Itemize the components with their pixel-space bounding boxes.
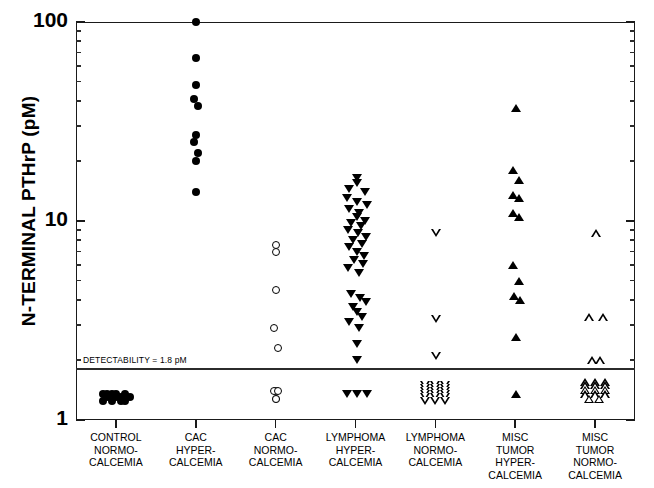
y-tick-minor (76, 65, 81, 66)
y-tick-minor (76, 324, 81, 325)
y-tick-minor (76, 125, 81, 126)
data-point (514, 213, 524, 221)
y-tick-minor (630, 280, 635, 281)
data-point (272, 248, 280, 256)
detectability-label: DETECTABILITY = 1.8 pM (83, 355, 187, 365)
y-tick-label-1: 1 (56, 406, 68, 430)
data-point (354, 269, 364, 277)
data-point (274, 344, 282, 352)
data-point (515, 296, 525, 304)
data-point (594, 395, 604, 403)
y-tick-label-100: 100 (33, 8, 68, 32)
data-point (511, 333, 521, 341)
data-point (357, 313, 367, 321)
y-tick-minor (630, 100, 635, 101)
y-tick-minor (630, 52, 635, 53)
y-tick-minor (76, 264, 81, 265)
data-point (344, 318, 354, 326)
y-tick-minor (630, 299, 635, 300)
data-point (99, 397, 107, 405)
y-tick-minor (76, 81, 81, 82)
x-tick (115, 420, 117, 428)
y-tick-minor (76, 359, 81, 360)
data-point (344, 205, 354, 213)
data-point (514, 176, 524, 184)
y-tick-minor (76, 100, 81, 101)
y-tick-major (626, 419, 635, 421)
y-tick-minor (630, 324, 635, 325)
y-tick-minor (630, 239, 635, 240)
data-point (272, 395, 280, 403)
x-tick (355, 420, 357, 428)
data-point (108, 397, 116, 405)
data-point (508, 261, 518, 269)
data-point (508, 166, 518, 174)
y-tick-minor (630, 359, 635, 360)
y-tick-minor (76, 251, 81, 252)
y-tick-minor (76, 52, 81, 53)
y-tick-major (626, 21, 635, 23)
data-point (431, 315, 441, 323)
y-tick-label-10: 10 (45, 207, 68, 231)
data-point (431, 229, 441, 237)
data-point (431, 352, 441, 360)
data-point (595, 356, 605, 364)
data-point (343, 226, 353, 234)
y-axis-title: N-TERMINAL PTHrP (pM) (14, 31, 44, 391)
y-tick-major (626, 220, 635, 222)
y-tick-minor (76, 160, 81, 161)
y-tick-minor (630, 81, 635, 82)
data-point (270, 324, 278, 332)
data-point (352, 390, 362, 398)
data-point (192, 54, 200, 62)
data-point (342, 194, 352, 202)
data-point (514, 277, 524, 285)
y-tick-minor (630, 229, 635, 230)
data-point (591, 229, 601, 237)
data-point (584, 395, 594, 403)
data-point (192, 18, 200, 26)
y-tick-major (76, 419, 85, 421)
data-point (430, 397, 440, 405)
data-point (598, 313, 608, 321)
data-point (354, 324, 364, 332)
y-tick-minor (630, 160, 635, 161)
y-tick-minor (630, 40, 635, 41)
x-tick (594, 420, 596, 428)
data-point (344, 185, 354, 193)
y-tick-minor (630, 30, 635, 31)
data-point (352, 340, 362, 348)
data-point (194, 149, 202, 157)
data-point (190, 138, 198, 146)
data-point (117, 397, 125, 405)
data-point (420, 397, 430, 405)
x-tick (435, 420, 437, 428)
data-point (584, 313, 594, 321)
data-point (440, 397, 450, 405)
y-tick-minor (76, 40, 81, 41)
y-tick-major (76, 21, 85, 23)
y-tick-minor (630, 251, 635, 252)
x-group-label-6: MISC TUMOR NORMO- CALCEMIA (547, 431, 643, 481)
y-tick-minor (76, 239, 81, 240)
chart-figure: N-TERMINAL PTHrP (pM) 100101 DETECTABILI… (0, 0, 654, 488)
data-point (192, 188, 200, 196)
data-point (362, 390, 372, 398)
y-tick-minor (76, 229, 81, 230)
y-tick-major (76, 220, 85, 222)
data-point (352, 356, 362, 364)
data-point (357, 240, 367, 248)
detectability-line (76, 368, 635, 370)
data-point (511, 390, 521, 398)
data-point (343, 264, 353, 272)
y-tick-minor (630, 65, 635, 66)
y-tick-minor (76, 299, 81, 300)
y-tick-minor (76, 30, 81, 31)
data-point (274, 387, 282, 395)
data-point (272, 286, 280, 294)
y-tick-minor (630, 264, 635, 265)
data-point (511, 104, 521, 112)
data-point (360, 188, 370, 196)
y-tick-minor (630, 125, 635, 126)
data-point (194, 102, 202, 110)
